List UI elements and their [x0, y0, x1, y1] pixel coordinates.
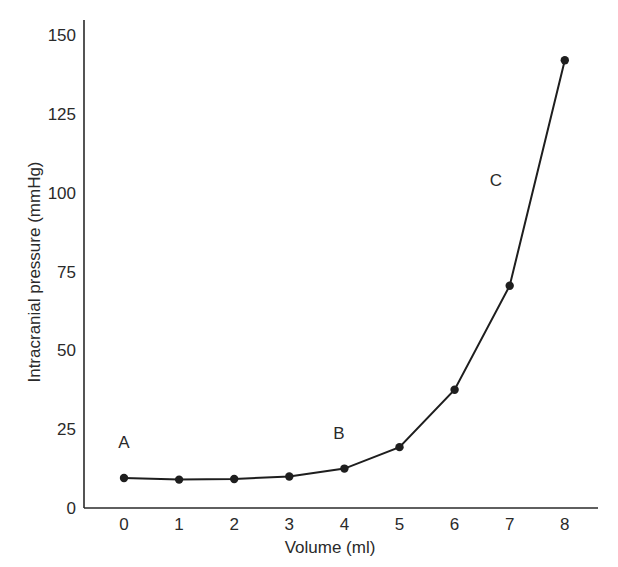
y-tick-label: 50: [57, 341, 76, 360]
y-tick-label: 75: [57, 263, 76, 282]
x-tick-label: 7: [505, 515, 514, 534]
x-tick-label: 2: [229, 515, 238, 534]
y-tick-label: 25: [57, 420, 76, 439]
data-point: [175, 475, 183, 483]
tick-labels: 0123456780255075100125150: [48, 26, 570, 534]
data-point: [285, 472, 293, 480]
y-tick-label: 100: [48, 184, 76, 203]
x-tick-label: 0: [119, 515, 128, 534]
data-line: [124, 60, 565, 479]
data-point: [340, 464, 348, 472]
data-point: [395, 443, 403, 451]
x-tick-label: 5: [395, 515, 404, 534]
x-tick-label: 8: [560, 515, 569, 534]
y-tick-label: 150: [48, 26, 76, 45]
x-tick-label: 1: [174, 515, 183, 534]
line-chart: 0123456780255075100125150 Volume (ml) In…: [0, 0, 618, 567]
data-point: [120, 474, 128, 482]
annotations: ABC: [118, 171, 502, 452]
x-axis-label: Volume (ml): [285, 538, 376, 557]
annotation-label: A: [118, 433, 130, 452]
x-tick-label: 4: [340, 515, 349, 534]
data-point: [506, 282, 514, 290]
annotation-label: C: [490, 171, 502, 190]
y-axis-label: Intracranial pressure (mmHg): [25, 161, 44, 382]
x-tick-label: 6: [450, 515, 459, 534]
data-point: [561, 56, 569, 64]
data-point: [230, 475, 238, 483]
data-markers: [120, 56, 569, 484]
data-point: [450, 386, 458, 394]
x-tick-label: 3: [285, 515, 294, 534]
y-tick-label: 125: [48, 105, 76, 124]
y-tick-label: 0: [67, 499, 76, 518]
annotation-label: B: [333, 424, 344, 443]
